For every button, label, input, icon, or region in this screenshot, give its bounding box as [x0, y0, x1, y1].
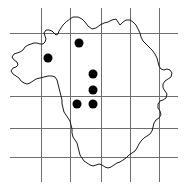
occurrence-point	[89, 70, 98, 79]
distribution-map-figure	[0, 0, 184, 191]
occurrence-point	[89, 86, 98, 95]
occurrence-point	[44, 54, 53, 63]
occurrence-point	[75, 39, 84, 48]
map-canvas	[0, 0, 184, 191]
occurrence-point	[89, 100, 98, 109]
occurrence-point	[73, 100, 82, 109]
grid-layer	[10, 8, 178, 182]
